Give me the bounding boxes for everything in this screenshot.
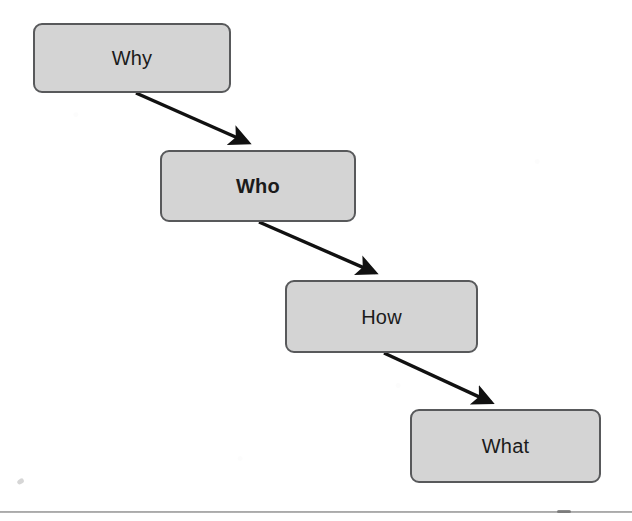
node-why[interactable]: Why — [33, 23, 231, 93]
node-what-label: What — [482, 436, 529, 456]
edge-how-to-what — [384, 353, 491, 402]
node-why-label: Why — [112, 48, 153, 68]
node-who-label: Who — [236, 176, 280, 196]
node-how-label: How — [361, 307, 402, 327]
node-who[interactable]: Who — [160, 150, 356, 222]
node-what[interactable]: What — [410, 409, 601, 483]
footer-rule-blot — [557, 510, 571, 513]
node-how[interactable]: How — [285, 280, 478, 353]
edge-who-to-how — [259, 222, 375, 273]
footer-rule — [0, 511, 632, 513]
edge-why-to-who — [136, 93, 248, 143]
diagram-canvas: Why Who How What — [0, 0, 632, 521]
